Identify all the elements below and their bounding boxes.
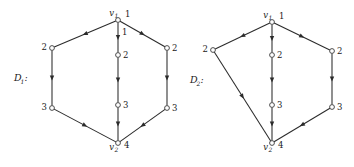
node-level-label-D2-left2: 2: [203, 44, 208, 54]
vertex-subscript-D2-v2: 2: [268, 146, 273, 153]
vertex-name-D1-v1: v: [109, 8, 114, 18]
node-D1-left2[interactable]: [50, 46, 55, 51]
edge-group-D2: [214, 23, 334, 142]
node-level-label-D1-mid3: 3: [123, 100, 128, 110]
edge-label-D1-v1-to-mid2: 1: [122, 27, 127, 37]
node-level-label-D2-v2: 4: [278, 140, 283, 150]
graph-D2: 1v1222334v2D2:: [189, 10, 342, 153]
node-level-label-D1-v2: 4: [124, 140, 129, 150]
node-level-label-D1-left3: 3: [42, 102, 47, 112]
arrowhead-D2-mid2-to-mid3: [270, 77, 274, 82]
vertex-subscript-D1-v2: 2: [114, 146, 119, 153]
arrowhead-D1-left2-to-left3: [50, 75, 54, 80]
node-D2-mid2[interactable]: [270, 53, 275, 58]
diagram-caption-colon-D2: :: [201, 74, 204, 85]
arrowhead-D1-right2-to-right3: [165, 75, 169, 80]
diagram-caption-colon-D1: :: [25, 72, 28, 83]
vertex-subscript-D2-v1: 1: [269, 14, 273, 21]
arrowhead-D1-v1-to-mid2: [116, 35, 120, 40]
graph-D1: 11v12223334v2D1:: [13, 8, 177, 153]
arrowhead-D1-mid3-to-v2: [116, 121, 120, 126]
node-D1-mid3[interactable]: [116, 103, 121, 108]
node-D1-right2[interactable]: [165, 46, 170, 51]
node-D2-mid3[interactable]: [270, 103, 275, 108]
node-level-label-D1-v1: 1: [125, 9, 130, 19]
node-D1-v2[interactable]: [116, 141, 121, 146]
diagram-caption-D2: D2:: [189, 74, 204, 87]
node-level-label-D1-left2: 2: [42, 42, 47, 52]
node-level-label-D2-mid2: 2: [277, 50, 282, 60]
vertex-name-D1-v2: v: [109, 142, 114, 152]
node-group-D1: 1v12223334v2: [42, 8, 178, 153]
node-D1-right3[interactable]: [165, 106, 170, 111]
node-level-label-D2-mid3: 3: [277, 100, 282, 110]
arrowhead-D2-left2-to-v2: [239, 93, 244, 99]
diagram-canvas: 11v12223334v2D1:1v1222334v2D2:: [0, 0, 354, 167]
node-D1-mid2[interactable]: [116, 53, 121, 58]
figure-two-directed-graphs: 11v12223334v2D1:1v1222334v2D2:: [0, 0, 354, 167]
arrowhead-D2-mid3-to-v2: [270, 121, 274, 126]
diagram-caption-D1: D1:: [13, 72, 28, 85]
vertex-name-D2-v2: v: [263, 142, 268, 152]
node-D2-v2[interactable]: [270, 141, 275, 146]
node-level-label-D2-right2: 2: [337, 46, 342, 56]
node-D2-right2[interactable]: [330, 49, 335, 54]
arrowhead-D2-right2-to-right3: [330, 76, 334, 81]
node-D1-left3[interactable]: [50, 106, 55, 111]
edge-group-D1: 1: [50, 21, 169, 142]
node-level-label-D2-v1: 1: [279, 11, 284, 21]
node-level-label-D1-mid2: 2: [123, 50, 128, 60]
node-D2-right3[interactable]: [330, 105, 335, 110]
vertex-subscript-D1-v1: 1: [115, 12, 119, 19]
node-D2-left2[interactable]: [211, 48, 216, 53]
arrowhead-D1-right3-to-v2: [140, 122, 146, 127]
node-level-label-D1-right3: 3: [172, 103, 177, 113]
node-level-label-D1-right2: 2: [172, 43, 177, 53]
node-level-label-D2-right3: 3: [337, 102, 342, 112]
arrowhead-D2-v1-to-mid2: [270, 36, 274, 41]
arrowhead-D1-mid2-to-mid3: [116, 77, 120, 82]
vertex-name-D2-v1: v: [263, 10, 268, 20]
